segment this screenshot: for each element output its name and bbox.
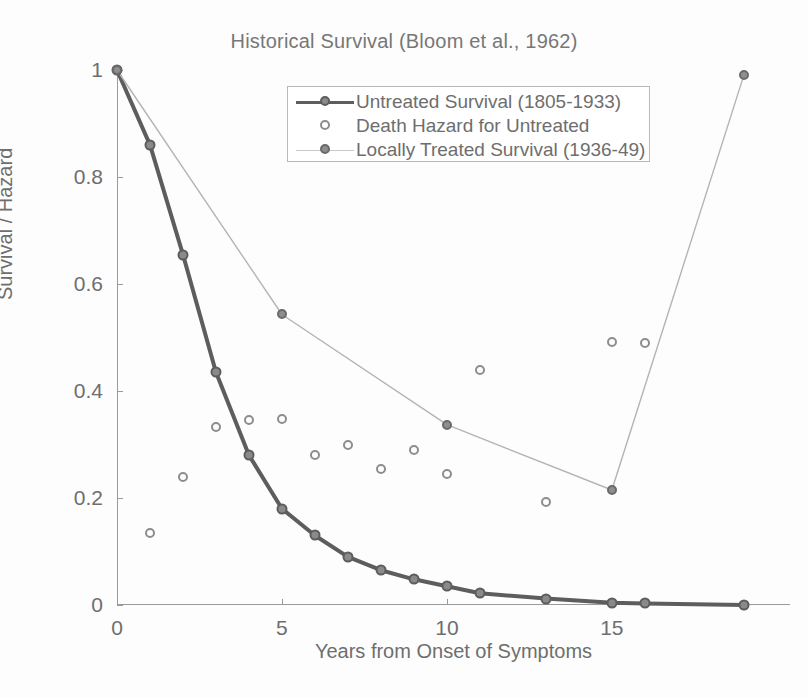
data-point <box>541 497 551 507</box>
data-point <box>178 472 188 482</box>
chart-title: Historical Survival (Bloom et al., 1962) <box>0 30 808 53</box>
data-point <box>738 600 749 611</box>
legend-key-untreated-icon <box>294 92 356 112</box>
y-tick-label: 0.8 <box>74 165 103 189</box>
data-point <box>310 450 320 460</box>
data-point <box>540 593 551 604</box>
data-point <box>442 420 452 430</box>
legend-item-untreated[interactable]: Untreated Survival (1805-1933) <box>294 90 643 114</box>
data-point <box>606 597 617 608</box>
data-point <box>375 565 386 576</box>
data-point <box>244 415 254 425</box>
y-tick-label: 0.4 <box>74 379 103 403</box>
x-tick-label: 10 <box>435 616 458 640</box>
data-point <box>639 598 650 609</box>
data-point <box>607 485 617 495</box>
data-point <box>211 422 221 432</box>
legend: Untreated Survival (1805-1933) Death Haz… <box>287 86 650 162</box>
legend-label-hazard: Death Hazard for Untreated <box>356 116 589 136</box>
data-point <box>243 450 254 461</box>
data-point <box>442 469 452 479</box>
chart-canvas: Historical Survival (Bloom et al., 1962)… <box>0 0 808 698</box>
data-point <box>376 464 386 474</box>
x-tick-label: 0 <box>111 616 123 640</box>
legend-item-hazard[interactable]: Death Hazard for Untreated <box>294 114 643 138</box>
data-point <box>145 528 155 538</box>
y-tick-label: 0.6 <box>74 272 103 296</box>
data-point <box>177 249 188 260</box>
data-point <box>409 445 419 455</box>
data-point <box>112 65 122 75</box>
data-point <box>475 365 485 375</box>
data-point <box>408 574 419 585</box>
y-tick-label: 0 <box>91 593 103 617</box>
legend-key-hazard-icon <box>294 116 356 136</box>
data-point <box>441 581 452 592</box>
legend-item-treated[interactable]: Locally Treated Survival (1936-49) <box>294 138 643 162</box>
data-point <box>277 414 287 424</box>
legend-key-treated-icon <box>294 140 356 160</box>
y-tick-label: 1 <box>91 58 103 82</box>
x-axis-label: Years from Onset of Symptoms <box>117 640 790 663</box>
y-axis-label: Survival / Hazard <box>0 148 17 300</box>
legend-label-untreated: Untreated Survival (1805-1933) <box>356 92 621 112</box>
data-point <box>144 139 155 150</box>
data-point <box>342 551 353 562</box>
data-point <box>474 588 485 599</box>
data-point <box>739 70 749 80</box>
data-point <box>210 367 221 378</box>
data-point <box>309 530 320 541</box>
data-point <box>276 503 287 514</box>
legend-label-treated: Locally Treated Survival (1936-49) <box>356 140 645 160</box>
x-tick-label: 15 <box>600 616 623 640</box>
data-point <box>640 338 650 348</box>
y-tick <box>117 605 123 606</box>
data-point <box>607 337 617 347</box>
y-tick-label: 0.2 <box>74 486 103 510</box>
data-point <box>277 309 287 319</box>
x-tick-label: 5 <box>276 616 288 640</box>
data-point <box>343 440 353 450</box>
